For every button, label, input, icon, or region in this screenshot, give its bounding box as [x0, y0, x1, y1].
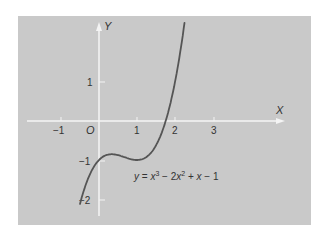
y-tick-label-1: 1: [87, 77, 93, 88]
x-tick-label-neg1: −1: [53, 125, 65, 136]
y-axis-label: Y: [104, 20, 112, 32]
function-plot: −1 O 1 2 3 1 −1 −2 X Y y = x3 − 2x2 + x …: [0, 0, 327, 238]
x-axis-label: X: [275, 104, 284, 116]
x-tick-label-3: 3: [211, 125, 217, 136]
x-tick-label-1: 1: [134, 125, 140, 136]
equation-label: y = x3 − 2x2 + x − 1: [133, 170, 219, 182]
origin-label: O: [86, 124, 95, 136]
x-tick-label-2: 2: [172, 125, 178, 136]
y-tick-label-neg1: −1: [79, 156, 91, 167]
